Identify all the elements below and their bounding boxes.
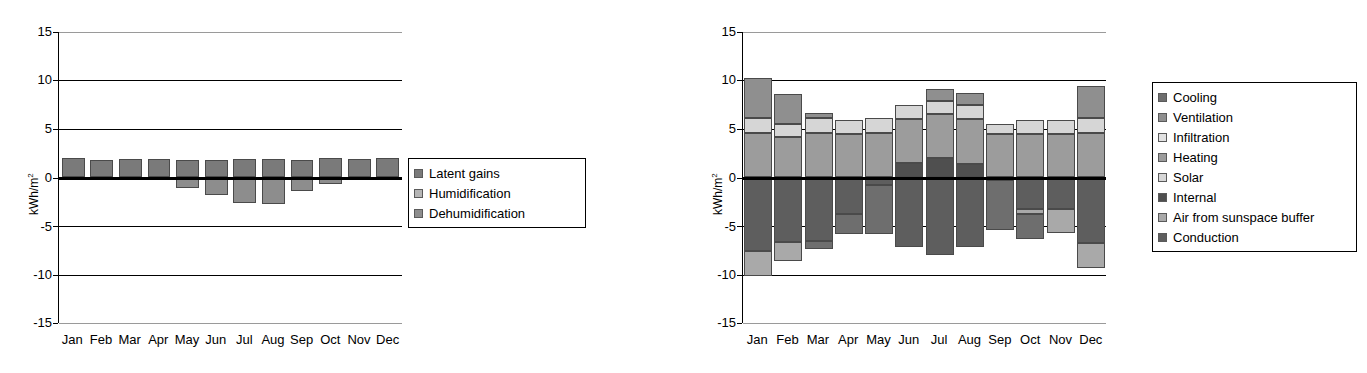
- y-tick-5: 5: [22, 122, 52, 135]
- y-tick-m10: -10: [22, 268, 52, 281]
- bar-segment: [956, 178, 984, 248]
- legend-swatch-icon: [1158, 133, 1167, 142]
- gridline-m15: [743, 323, 1106, 324]
- bar-segment: [926, 178, 954, 256]
- bar-segment: [744, 118, 772, 133]
- bar-segment: [774, 124, 802, 137]
- legend-item-infiltration[interactable]: Infiltration: [1158, 127, 1350, 147]
- y-tick-15: 15: [706, 25, 736, 38]
- y-tick-m5: -5: [22, 220, 52, 233]
- bar-segment: [291, 178, 314, 192]
- figure-root: kWh/m2 15 10 5 0 -5 -10 -15 JanFebMarApr…: [0, 0, 1367, 373]
- x-axis-tick-label: Jul: [230, 330, 259, 350]
- bar-segment: [895, 163, 923, 178]
- x-axis-tick-label: Jun: [894, 330, 924, 350]
- bar-segment: [986, 134, 1014, 178]
- legend-label: Ventilation: [1173, 111, 1233, 124]
- bar-segment: [1077, 86, 1105, 118]
- bar-segment: [744, 251, 772, 276]
- legend-item-humidification[interactable]: Humidification: [414, 183, 579, 203]
- bar-segment: [1077, 133, 1105, 178]
- bar-segment: [90, 160, 113, 177]
- legend-item-solar[interactable]: Solar: [1158, 167, 1350, 187]
- x-axis-tick-label: Nov: [1045, 330, 1075, 350]
- legend-label: Internal: [1173, 191, 1216, 204]
- x-axis-tick-label: Aug: [259, 330, 288, 350]
- bar-segment: [835, 178, 863, 215]
- bar-segment: [233, 178, 256, 203]
- legend-swatch-icon: [414, 169, 423, 178]
- bar-segment: [119, 159, 142, 177]
- bar-segment: [835, 134, 863, 178]
- bar-segment: [1016, 134, 1044, 178]
- x-axis-tick-label: Jan: [742, 330, 772, 350]
- bar-segment: [805, 241, 833, 250]
- legend-left[interactable]: Latent gainsHumidificationDehumidificati…: [408, 158, 586, 228]
- x-axis-tick-label: Oct: [1015, 330, 1045, 350]
- y-tick-m15: -15: [706, 316, 736, 329]
- y-tick-m15: -15: [22, 316, 52, 329]
- bar-segment: [319, 158, 342, 177]
- legend-right[interactable]: CoolingVentilationInfiltrationHeatingSol…: [1152, 82, 1357, 252]
- bar-segment: [376, 158, 399, 177]
- chart-panel-energy-balance: kWh/m2 15 10 5 0 -5 -10 -15 JanFebMarApr…: [690, 0, 1367, 373]
- legend-label: Air from sunspace buffer: [1173, 211, 1314, 224]
- bar-segment: [805, 133, 833, 178]
- x-axis-tick-label: Feb: [87, 330, 116, 350]
- x-axis-tick-label: Sep: [287, 330, 316, 350]
- gridline-m15: [59, 323, 402, 324]
- legend-item-ventilation[interactable]: Ventilation: [1158, 107, 1350, 127]
- plot-area-left: [58, 32, 402, 323]
- bar-segment: [956, 93, 984, 105]
- legend-item-cooling[interactable]: Cooling: [1158, 87, 1350, 107]
- x-axis-tick-label: Sep: [985, 330, 1015, 350]
- bar-segment: [986, 124, 1014, 134]
- tick-mark: [53, 323, 58, 324]
- x-axis-tick-label: Feb: [772, 330, 802, 350]
- x-axis-labels-left: JanFebMarAprMayJunJulAugSepOctNovDec: [58, 330, 402, 350]
- x-axis-tick-label: Mar: [803, 330, 833, 350]
- x-axis-tick-label: Jan: [58, 330, 87, 350]
- legend-item-latent-gains[interactable]: Latent gains: [414, 163, 579, 183]
- legend-item-internal[interactable]: Internal: [1158, 187, 1350, 207]
- legend-swatch-icon: [1158, 153, 1167, 162]
- legend-swatch-icon: [1158, 233, 1167, 242]
- bar-segment: [1047, 209, 1075, 233]
- y-tick-m5: -5: [706, 220, 736, 233]
- bar-segment: [1077, 178, 1105, 244]
- bar-segment: [956, 119, 984, 164]
- legend-label: Cooling: [1173, 91, 1217, 104]
- x-axis-tick-label: Apr: [833, 330, 863, 350]
- bar-segment: [835, 214, 863, 233]
- bar-segment: [956, 105, 984, 120]
- bar-segment: [205, 160, 228, 177]
- bar-segment: [895, 178, 923, 248]
- legend-item-dehumidification[interactable]: Dehumidification: [414, 203, 579, 223]
- legend-swatch-icon: [414, 209, 423, 218]
- bar-segment: [926, 158, 954, 177]
- y-tick-10: 10: [706, 73, 736, 86]
- bar-segment: [865, 118, 893, 133]
- y-tick-0: 0: [706, 171, 736, 184]
- legend-item-air-from-sunspace-buffer[interactable]: Air from sunspace buffer: [1158, 207, 1350, 227]
- legend-item-heating[interactable]: Heating: [1158, 147, 1350, 167]
- tick-mark: [737, 323, 742, 324]
- bar-segment: [956, 164, 984, 178]
- y-tick-15: 15: [22, 25, 52, 38]
- x-axis-tick-label: Jul: [924, 330, 954, 350]
- bar-segment: [986, 180, 1014, 229]
- bar-segment: [62, 158, 85, 177]
- bar-segment: [926, 89, 954, 101]
- legend-label: Infiltration: [1173, 131, 1229, 144]
- y-tick-5: 5: [706, 122, 736, 135]
- bar-segment: [205, 178, 228, 195]
- legend-label: Dehumidification: [429, 207, 525, 220]
- legend-item-conduction[interactable]: Conduction: [1158, 227, 1350, 247]
- bar-segment: [865, 185, 893, 234]
- bar-segment: [774, 242, 802, 260]
- bar-segment: [774, 94, 802, 124]
- legend-label: Humidification: [429, 187, 511, 200]
- x-axis-labels-right: JanFebMarAprMayJunJulAugSepOctNovDec: [742, 330, 1106, 350]
- bar-segment: [774, 137, 802, 178]
- bar-segment: [1077, 118, 1105, 133]
